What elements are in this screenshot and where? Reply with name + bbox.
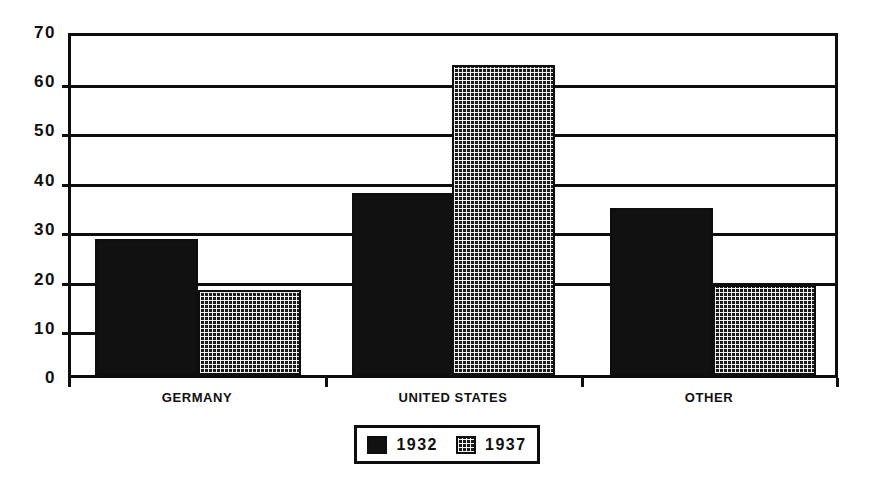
x-tick-right-edge — [836, 378, 839, 387]
bar-other-1932 — [610, 208, 713, 375]
plot-area — [68, 33, 838, 378]
x-tick-left-edge — [68, 378, 71, 387]
bar-germany-1937 — [198, 290, 301, 375]
legend-entry-1932: 1932 — [358, 436, 447, 454]
y-tick-label-70: 70 — [34, 23, 56, 43]
x-tick-boundary-1 — [325, 378, 328, 387]
legend-swatch-1937-icon — [456, 436, 476, 454]
y-tick-mark-30 — [62, 233, 71, 236]
y-tick-label-0: 0 — [45, 368, 56, 388]
chart-legend: 1932 1937 — [354, 425, 540, 464]
bar-chart-figure: 70 60 50 40 30 20 10 0 — [0, 0, 873, 502]
bar-other-1937 — [713, 285, 816, 375]
y-axis-labels: 70 60 50 40 30 20 10 0 — [0, 0, 56, 502]
y-tick-label-60: 60 — [34, 72, 56, 92]
y-tick-mark-10 — [62, 332, 71, 335]
y-tick-label-40: 40 — [34, 171, 56, 191]
bar-united-states-1937 — [452, 65, 555, 375]
y-tick-label-10: 10 — [34, 319, 56, 339]
y-tick-label-50: 50 — [34, 121, 56, 141]
y-tick-mark-40 — [62, 184, 71, 187]
legend-swatch-1932-icon — [367, 436, 387, 454]
legend-label-1937: 1937 — [485, 436, 527, 454]
bar-united-states-1932 — [352, 193, 452, 375]
x-tick-boundary-2 — [581, 378, 584, 387]
x-category-label-other: OTHER — [685, 390, 734, 405]
legend-label-1932: 1932 — [396, 436, 438, 454]
y-tick-mark-20 — [62, 283, 71, 286]
y-tick-mark-60 — [62, 85, 71, 88]
y-tick-label-20: 20 — [34, 270, 56, 290]
x-category-label-united-states: UNITED STATES — [398, 390, 507, 405]
legend-entry-1937: 1937 — [447, 436, 536, 454]
bar-germany-1932 — [95, 239, 198, 375]
y-tick-mark-50 — [62, 134, 71, 137]
x-category-label-germany: GERMANY — [162, 390, 233, 405]
y-tick-label-30: 30 — [34, 220, 56, 240]
